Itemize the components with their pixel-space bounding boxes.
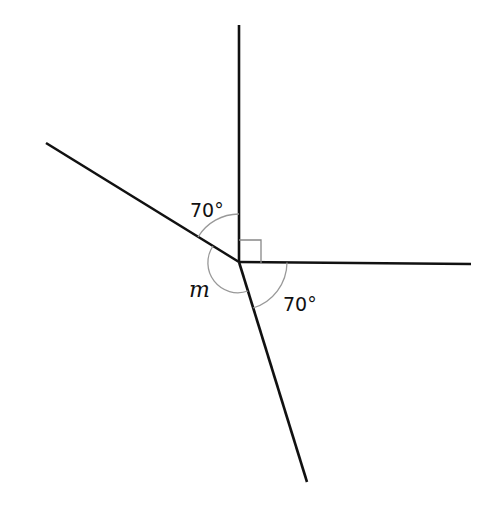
arc-bottom-right-70 bbox=[253, 263, 287, 309]
ray-right bbox=[239, 262, 471, 264]
label-angle-m: m bbox=[189, 277, 210, 302]
angle-diagram: 70° 70° m bbox=[0, 0, 503, 511]
label-angle-top-left: 70° bbox=[190, 199, 224, 221]
label-angle-bottom-right: 70° bbox=[283, 293, 317, 315]
right-angle-marker bbox=[239, 240, 261, 263]
